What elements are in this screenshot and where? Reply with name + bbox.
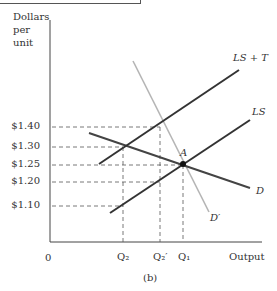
curve-d: [89, 133, 250, 188]
equilibrium-point-a: [180, 161, 186, 167]
price-tick-1-20: $1.20: [0, 176, 40, 186]
price-tick-1-10: $1.10: [0, 200, 40, 210]
label-point-a: A: [180, 148, 187, 158]
price-tick-1-40: $1.40: [0, 121, 40, 131]
x-axis-label: Output: [229, 252, 265, 262]
label-ls-plus-t: LS + T: [233, 53, 268, 63]
price-tick-1-30: $1.30: [0, 141, 40, 151]
price-tick-1-25: $1.25: [0, 159, 40, 169]
quantity-tick-q2: Q₂: [117, 252, 129, 262]
origin-label: 0: [45, 253, 51, 263]
label-ls: LS: [252, 107, 266, 117]
quantity-tick-q1: Q₁: [178, 252, 190, 262]
curve-ls: [110, 120, 250, 213]
y-axis-label-line-2: per: [13, 23, 49, 36]
label-d: D: [256, 186, 264, 196]
curve-ls-plus-t: [99, 70, 239, 164]
dashed-guides: [52, 127, 183, 242]
panel-label: (b): [143, 273, 157, 283]
label-d-prime: D′: [210, 213, 220, 223]
y-axis-label-line-3: unit: [13, 36, 49, 49]
y-axis-label: Dollars per unit: [13, 10, 49, 49]
quantity-tick-q2-prime: Q₂′: [153, 252, 167, 262]
y-axis-label-line-1: Dollars: [13, 10, 49, 23]
